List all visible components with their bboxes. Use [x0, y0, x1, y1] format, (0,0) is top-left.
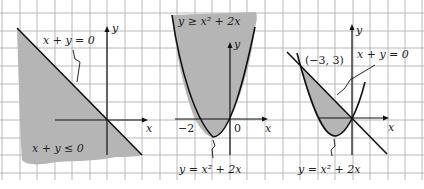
- axis-x-label-b: x: [265, 122, 272, 135]
- leader-squiggle-icon: [337, 65, 375, 95]
- axis-x-label-c: x: [388, 121, 395, 134]
- graph-panels: x y x + y = 0 x + y ≤ 0 x y −2 0 y ≥ x² …: [0, 0, 424, 189]
- axis-x-label-a: x: [146, 122, 153, 135]
- axis-y-label-c: y: [355, 24, 363, 37]
- boundary-label-a: x + y = 0: [43, 34, 95, 47]
- inequality-label-a: x + y ≤ 0: [32, 142, 84, 155]
- tick-label-neg2: −2: [178, 122, 194, 135]
- inequality-label-b: y ≥ x² + 2x: [177, 15, 241, 28]
- axis-y-label-a: y: [111, 22, 119, 35]
- leader-squiggle-icon: [331, 139, 335, 156]
- shaded-region-c: [300, 66, 352, 136]
- line-label-c: x + y = 0: [357, 48, 409, 61]
- curve-label-c: y = x² + 2x: [297, 163, 361, 176]
- figure-c: x y (−3, 3) x + y = 0 y = x² + 2x: [287, 24, 409, 176]
- axis-y-label-b: y: [233, 38, 241, 51]
- tick-label-0: 0: [234, 122, 241, 135]
- y-axis-arrow-icon: [350, 24, 355, 30]
- figure-b: x y −2 0 y ≥ x² + 2x y = x² + 2x: [172, 12, 272, 176]
- point-label-c: (−3, 3): [305, 54, 344, 67]
- y-axis-arrow-icon: [105, 26, 110, 32]
- figure-a: x y x + y = 0 x + y ≤ 0: [17, 22, 153, 164]
- curve-label-b: y = x² + 2x: [178, 163, 242, 176]
